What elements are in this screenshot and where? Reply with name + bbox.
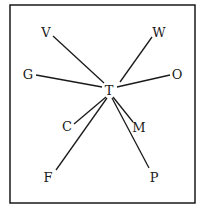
edge-t-f <box>56 98 107 170</box>
edge-t-v <box>53 36 104 83</box>
node-label-p: P <box>150 170 159 185</box>
edge-t-o <box>117 75 170 87</box>
node-label-o: O <box>172 67 183 82</box>
node-label-v: V <box>40 25 51 40</box>
edge-t-g <box>36 75 102 87</box>
star-diagram: T VWGOCMFP <box>0 0 200 209</box>
node-label-m: M <box>132 120 145 135</box>
edge-t-w <box>120 37 152 82</box>
node-label-f: F <box>43 170 52 185</box>
center-node-label: T <box>105 83 114 98</box>
node-label-g: G <box>23 67 33 82</box>
node-label-c: C <box>62 119 72 134</box>
edges <box>36 36 170 170</box>
edge-t-c <box>74 97 106 124</box>
node-label-w: W <box>152 25 166 40</box>
